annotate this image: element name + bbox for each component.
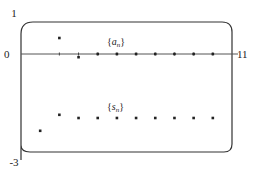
a-n-point-3 <box>77 56 80 59</box>
a-n-point-5 <box>116 53 119 56</box>
a-n-point-6 <box>135 53 138 56</box>
s-n-point-6 <box>135 117 138 120</box>
s-n-point-5 <box>116 117 119 120</box>
a-n-point-7 <box>154 53 157 56</box>
s-n-point-4 <box>96 117 99 120</box>
series-label-s-n: {sn} <box>107 101 124 114</box>
y-tick-label-bottom: -3 <box>9 156 19 168</box>
s-n-point-1 <box>39 130 42 133</box>
a-n-point-9 <box>192 53 195 56</box>
s-n-point-3 <box>77 117 80 120</box>
x-tick-label-end: 11 <box>237 48 248 60</box>
s-n-point-10 <box>212 117 215 120</box>
a-n-point-10 <box>212 53 215 56</box>
y-tick-label-top: 1 <box>11 7 17 19</box>
s-n-point-2 <box>58 114 61 117</box>
s-n-point-8 <box>173 117 176 120</box>
a-n-point-2 <box>58 37 61 40</box>
a-n-point-8 <box>173 53 176 56</box>
y-tick-label-zero: 0 <box>4 48 10 60</box>
series-label-a-n: {an} <box>107 36 125 49</box>
sequence-chart: 1 0 -3 11 {an} {sn} <box>0 0 253 170</box>
plot-frame <box>21 22 232 160</box>
s-n-point-7 <box>154 117 157 120</box>
s-n-point-9 <box>192 117 195 120</box>
a-n-point-4 <box>96 53 99 56</box>
